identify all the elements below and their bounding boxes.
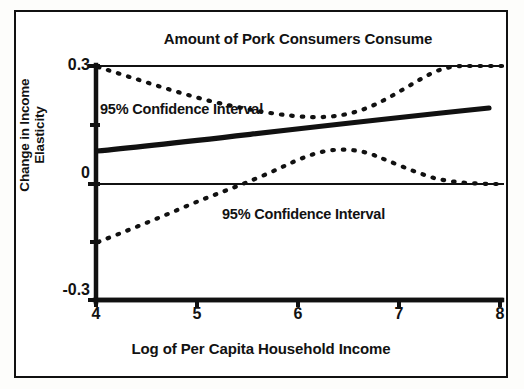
x-tick-label-7: 7 <box>384 305 414 323</box>
x-axis-title: Log of Per Capita Household Income <box>14 340 508 357</box>
y-axis-title-line-2: Elasticity <box>32 40 47 230</box>
upper-confidence-interval-label: 95% Confidence Interval <box>100 101 263 117</box>
x-tick-label-5: 5 <box>182 305 212 323</box>
y-axis-title: Change in Income Elasticity <box>17 40 47 230</box>
x-tick-label-6: 6 <box>283 305 313 323</box>
lower-confidence-interval-curve <box>98 150 501 242</box>
figure-container: Amount of Pork Consumers Consume 0.3 <box>0 0 524 389</box>
x-tick-label-4: 4 <box>81 305 111 323</box>
x-axis-tick-labels: 4 5 6 7 8 <box>0 305 524 335</box>
y-tick-label-top: 0.3 <box>68 56 90 74</box>
x-tick-label-8: 8 <box>485 305 515 323</box>
y-tick-label-zero: 0 <box>81 164 90 182</box>
y-axis-title-line-1: Change in Income <box>17 40 32 230</box>
y-tick-label-bottom: -0.3 <box>62 281 90 299</box>
lower-confidence-interval-label: 95% Confidence Interval <box>222 206 385 222</box>
